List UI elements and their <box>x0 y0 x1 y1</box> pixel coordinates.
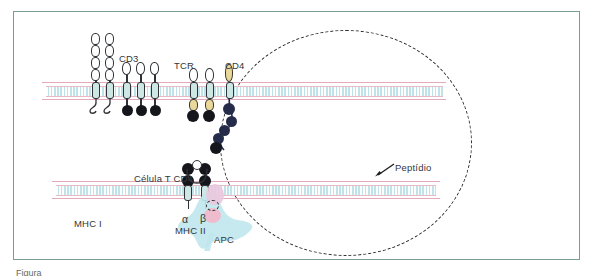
cd3-tail-bead <box>150 105 161 116</box>
apc-membrane-outer-line-top <box>52 181 440 182</box>
cd4-bead <box>210 142 222 154</box>
figure-caption-partial: Figura <box>16 268 166 276</box>
cd3-transmembrane-domain <box>92 82 100 99</box>
tcr-tail-bead <box>187 110 199 122</box>
label-apc: APC <box>214 234 234 245</box>
cd3-domain <box>91 57 100 69</box>
label-peptide: Peptídio <box>395 162 431 173</box>
cd3-transmembrane-domain <box>151 82 159 99</box>
label-cd4-receptor: CD4 <box>225 60 245 71</box>
cd3-domain <box>105 33 114 45</box>
cd3-domain <box>105 45 114 57</box>
label-t-cell: Célula T CD4 <box>134 173 193 184</box>
tcr-variable-domain <box>205 68 214 82</box>
figure-panel: CD3 TCR CD4 Peptídio α β MHC II MHC I Cé… <box>13 11 580 260</box>
cd3-transmembrane-domain <box>106 82 114 99</box>
label-mhc-i: MHC I <box>74 218 102 229</box>
cd3-cytoplasmic-tail <box>101 98 119 114</box>
cd3-tail-bead <box>122 105 133 116</box>
cd3-tail-bead <box>136 105 147 116</box>
label-mhc-ii: MHC II <box>175 225 206 236</box>
cd3-domain <box>91 45 100 57</box>
cd3-domain <box>91 69 100 81</box>
tcr-transmembrane-domain <box>190 82 198 99</box>
t-cell-membrane-outer-line-top <box>42 82 446 83</box>
cd3-transmembrane-domain <box>123 82 131 99</box>
cd3-domain <box>91 33 100 45</box>
cd3-domain <box>105 69 114 81</box>
cd3-domain <box>105 57 114 69</box>
cd3-transmembrane-domain <box>137 82 145 99</box>
label-tcr: TCR <box>174 60 194 71</box>
magnified-synapse-inset <box>220 30 472 256</box>
synapse-contact-ring <box>206 200 219 211</box>
bound-peptide <box>192 160 202 170</box>
label-mhc-ii-beta: β <box>200 212 206 224</box>
label-mhc-ii-alpha: α <box>182 213 188 225</box>
cd4-transmembrane-domain <box>226 82 234 99</box>
cd4-bead <box>223 103 235 115</box>
label-cd3: CD3 <box>119 53 139 64</box>
cd3-domain <box>150 62 159 75</box>
tcr-transmembrane-domain <box>206 82 214 99</box>
peptide-arrow-icon <box>371 163 395 177</box>
